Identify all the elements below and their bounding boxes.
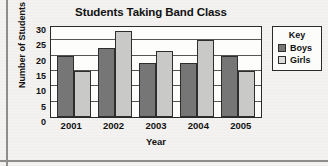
x-axis-tick-label: 2004	[179, 120, 217, 131]
legend-title: Key	[275, 30, 319, 40]
bar-girls-2005	[238, 71, 255, 117]
bar-boys-2003	[139, 63, 156, 117]
bar-girls-2003	[156, 51, 173, 117]
bar-girls-2001	[74, 71, 91, 117]
x-axis-tick-labels: 20012002200320042005	[50, 120, 262, 134]
plot-wrapper	[50, 26, 262, 118]
legend-swatch-boys-icon	[278, 44, 286, 52]
plot-area	[50, 26, 262, 118]
bar-group	[221, 27, 255, 117]
chart-title: Students Taking Band Class	[40, 6, 262, 18]
legend-swatch-girls-icon	[278, 56, 286, 64]
legend-label: Boys	[290, 43, 312, 53]
x-axis-tick-label: 2001	[52, 120, 90, 131]
chart-page: Students Taking Band Class Number of Stu…	[0, 0, 328, 166]
bar-boys-2002	[98, 48, 115, 117]
legend-entries: BoysGirls	[275, 42, 319, 66]
bar-boys-2004	[180, 63, 197, 117]
bar-girls-2002	[115, 31, 132, 117]
y-axis-tick-labels: 051015202530	[22, 26, 46, 118]
bar-group	[139, 27, 173, 117]
page-margin-rule-left	[6, 0, 8, 166]
x-axis-tick-label: 2002	[95, 120, 133, 131]
x-axis-tick-label: 2003	[137, 120, 175, 131]
legend-key: Key BoysGirls	[272, 26, 322, 71]
x-axis-tick-label: 2005	[222, 120, 260, 131]
bar-boys-2001	[57, 56, 74, 117]
legend-label: Girls	[290, 55, 311, 65]
bar-group	[57, 27, 91, 117]
x-axis-title: Year	[50, 136, 262, 147]
legend-entry-girls: Girls	[275, 54, 319, 66]
bar-group	[98, 27, 132, 117]
bar-groups	[51, 27, 261, 117]
bar-group	[180, 27, 214, 117]
bar-girls-2004	[197, 40, 214, 117]
page-margin-rule-bottom	[0, 160, 328, 162]
bar-boys-2005	[221, 56, 238, 117]
legend-entry-boys: Boys	[275, 42, 319, 54]
